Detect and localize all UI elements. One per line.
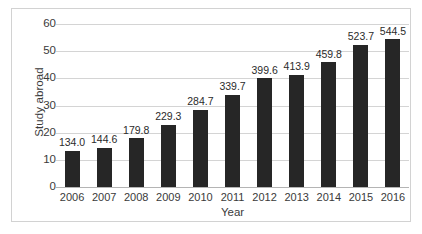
x-axis-tick-label: 2010 bbox=[184, 190, 216, 205]
bar-slot: 339.7 bbox=[216, 24, 248, 187]
bar[interactable] bbox=[289, 75, 304, 187]
x-axis-tick-label: 2012 bbox=[249, 190, 281, 205]
bar[interactable] bbox=[97, 148, 112, 187]
y-axis-tick-label: 30 bbox=[34, 100, 56, 112]
plot-area: 134.0144.6179.8229.3284.7339.7399.6413.9… bbox=[56, 24, 409, 187]
y-axis-tick-label: 20 bbox=[34, 127, 56, 139]
bar-value-label: 134.0 bbox=[59, 137, 85, 148]
bar[interactable] bbox=[257, 78, 272, 187]
bar[interactable] bbox=[321, 62, 336, 187]
y-axis-tick-label: 40 bbox=[34, 73, 56, 85]
bar-slot: 284.7 bbox=[184, 24, 216, 187]
x-axis-tick-label: 2014 bbox=[313, 190, 345, 205]
bar-slot: 523.7 bbox=[345, 24, 377, 187]
bar-value-label: 544.5 bbox=[380, 26, 406, 37]
bar-value-label: 523.7 bbox=[348, 31, 374, 42]
y-axis-tick-label: 0 bbox=[34, 181, 56, 193]
x-axis-tick-label: 2015 bbox=[345, 190, 377, 205]
bar-value-label: 284.7 bbox=[187, 96, 213, 107]
bar[interactable] bbox=[161, 125, 176, 187]
x-axis-tick-label: 2016 bbox=[377, 190, 409, 205]
bar-slot: 399.6 bbox=[249, 24, 281, 187]
bar-slot: 144.6 bbox=[88, 24, 120, 187]
y-axis-tick-label: 50 bbox=[34, 45, 56, 57]
bar-slot: 179.8 bbox=[120, 24, 152, 187]
bar[interactable] bbox=[385, 39, 400, 187]
bar[interactable] bbox=[65, 151, 80, 187]
y-axis-tick-labels: 0102030405060 bbox=[34, 9, 56, 223]
x-axis-tick-label: 2009 bbox=[152, 190, 184, 205]
x-axis-tick-label: 2007 bbox=[88, 190, 120, 205]
bar-value-label: 144.6 bbox=[91, 134, 117, 145]
bar-slot: 459.8 bbox=[313, 24, 345, 187]
x-axis-title: Year bbox=[56, 205, 409, 219]
axis-baseline bbox=[56, 187, 409, 188]
bar[interactable] bbox=[353, 45, 368, 187]
bar[interactable] bbox=[129, 138, 144, 187]
bar[interactable] bbox=[193, 110, 208, 187]
bar-value-label: 413.9 bbox=[284, 61, 310, 72]
x-axis-tick-labels: 2006200720082009201020112012201320142015… bbox=[56, 190, 409, 205]
x-axis-tick-label: 2011 bbox=[216, 190, 248, 205]
bar-value-label: 459.8 bbox=[316, 49, 342, 60]
bar-slot: 229.3 bbox=[152, 24, 184, 187]
bar-slot: 544.5 bbox=[377, 24, 409, 187]
bar-value-label: 399.6 bbox=[251, 65, 277, 76]
bar[interactable] bbox=[225, 95, 240, 187]
bar-value-label: 179.8 bbox=[123, 125, 149, 136]
bar-slot: 134.0 bbox=[56, 24, 88, 187]
x-axis-tick-label: 2013 bbox=[281, 190, 313, 205]
y-axis-tick-label: 60 bbox=[34, 18, 56, 30]
x-axis-tick-label: 2008 bbox=[120, 190, 152, 205]
bar-value-label: 229.3 bbox=[155, 111, 181, 122]
bar-series: 134.0144.6179.8229.3284.7339.7399.6413.9… bbox=[56, 24, 409, 187]
bar-value-label: 339.7 bbox=[219, 81, 245, 92]
bar-slot: 413.9 bbox=[281, 24, 313, 187]
x-axis-tick-label: 2006 bbox=[56, 190, 88, 205]
chart-frame: Study abroad 0102030405060 134.0144.6179… bbox=[11, 8, 411, 222]
y-axis-tick-label: 10 bbox=[34, 154, 56, 166]
